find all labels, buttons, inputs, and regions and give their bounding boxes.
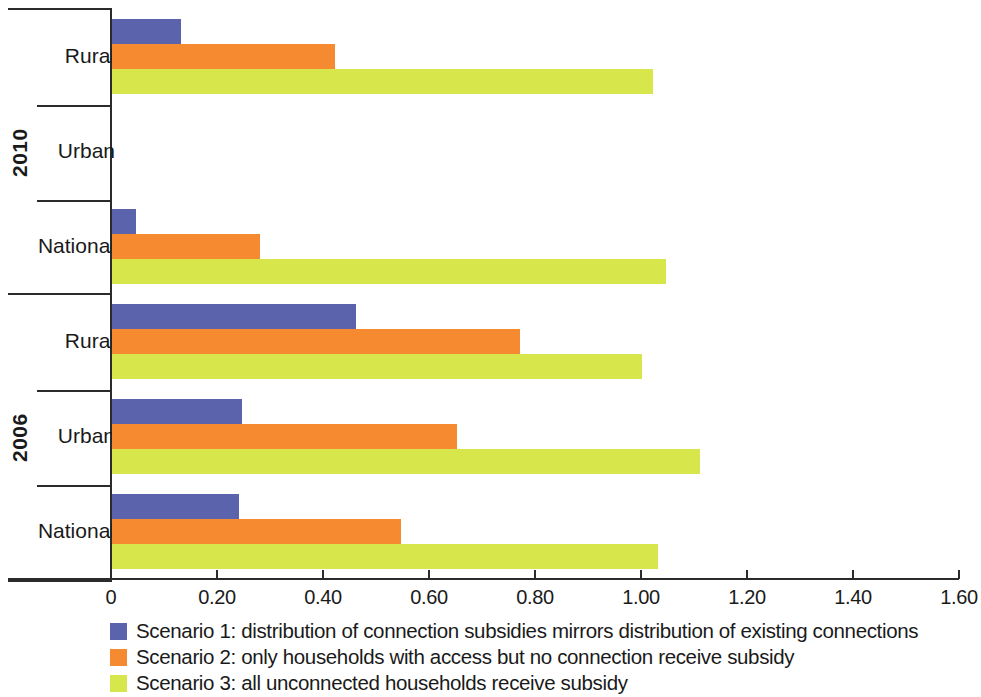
year-group-separator [8, 293, 112, 295]
category-label-rural: Rural [65, 329, 115, 353]
x-axis-tick-label: 1.00 [622, 586, 660, 609]
chart-legend: Scenario 1: distribution of connection s… [110, 618, 980, 696]
bar-scenario-1 [112, 209, 136, 234]
legend-label: Scenario 2: only households with access … [136, 645, 794, 669]
legend-swatch-icon [110, 623, 127, 640]
year-group-label-2006: 2006 [8, 406, 42, 470]
legend-item: Scenario 2: only households with access … [110, 644, 980, 670]
x-axis-tick-label: 1.60 [940, 586, 978, 609]
legend-swatch-icon [110, 649, 127, 666]
legend-label: Scenario 1: distribution of connection s… [136, 619, 918, 643]
category-separator [37, 485, 112, 487]
bar-scenario-3 [112, 69, 653, 94]
bar-scenario-2 [112, 44, 335, 69]
bar-scenario-3 [112, 354, 642, 379]
x-axis-tick-label: 1.20 [728, 586, 766, 609]
bar-scenario-1 [112, 19, 181, 44]
category-label-urban: Urban [58, 139, 115, 163]
bar-scenario-2 [112, 234, 260, 259]
bar-scenario-2 [112, 424, 457, 449]
category-separator [37, 390, 112, 392]
bar-scenario-3 [112, 544, 658, 569]
category-row: Urban [0, 390, 981, 485]
legend-label: Scenario 3: all unconnected households r… [136, 671, 628, 695]
x-axis-tick-label: 1.40 [834, 586, 872, 609]
category-label-national: National [38, 234, 115, 258]
category-separator [37, 105, 112, 107]
year-group-separator [8, 580, 112, 582]
category-label-national: National [38, 519, 115, 543]
bar-scenario-1 [112, 304, 356, 329]
category-row: Urban [0, 105, 981, 200]
bar-scenario-3 [112, 259, 666, 284]
category-label-urban: Urban [58, 424, 115, 448]
x-axis-tick-label: 0.20 [198, 586, 236, 609]
category-row: National [0, 200, 981, 295]
bar-scenario-2 [112, 329, 520, 354]
x-axis-tick-label: 0.60 [410, 586, 448, 609]
category-row: Rural [0, 10, 981, 105]
category-label-rural: Rural [65, 44, 115, 68]
bar-chart: 00.200.400.600.801.001.201.401.60 RuralU… [0, 0, 981, 697]
year-group-label-2010: 2010 [8, 121, 42, 185]
category-row: Rural [0, 295, 981, 390]
bar-scenario-1 [112, 399, 242, 424]
year-group-separator [8, 8, 112, 10]
category-separator [37, 200, 112, 202]
legend-swatch-icon [110, 675, 127, 692]
legend-item: Scenario 1: distribution of connection s… [110, 618, 980, 644]
x-axis-tick-label: 0.80 [516, 586, 554, 609]
x-axis-tick-label: 0 [106, 586, 117, 609]
bar-scenario-1 [112, 494, 239, 519]
category-row: National [0, 485, 981, 580]
bar-scenario-3 [112, 449, 700, 474]
x-axis-tick-label: 0.40 [304, 586, 342, 609]
bar-scenario-2 [112, 519, 401, 544]
legend-item: Scenario 3: all unconnected households r… [110, 670, 980, 696]
